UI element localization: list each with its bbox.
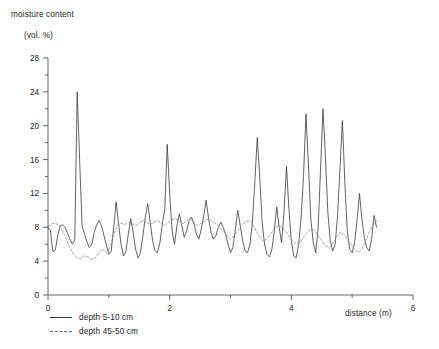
y-axis-tick-label: 20 <box>30 122 40 131</box>
legend-item-depth-5-10: depth 5-10 cm <box>50 313 133 322</box>
y-axis-tick-label: 0 <box>34 291 39 300</box>
chart-container: moisture content (vol. %) distance (m) 0… <box>0 0 439 349</box>
y-axis-tick-label: 12 <box>30 189 40 198</box>
legend-label-0: depth 5-10 cm <box>79 313 133 322</box>
legend-swatch-dashed-icon <box>50 331 72 333</box>
series-line-0 <box>48 92 377 258</box>
legend-item-depth-45-50: depth 45-50 cm <box>50 327 138 336</box>
series-line-1 <box>48 219 377 260</box>
y-axis-tick-label: 28 <box>30 54 40 63</box>
y-axis-tick-label: 8 <box>34 223 39 232</box>
x-axis-tick-label: 2 <box>167 304 172 313</box>
plot-area: 04812162024280246 <box>0 0 439 349</box>
y-axis-tick-label: 16 <box>30 156 40 165</box>
x-axis-tick-label: 0 <box>46 304 51 313</box>
legend-label-1: depth 45-50 cm <box>79 327 138 336</box>
y-axis-tick-label: 4 <box>34 257 39 266</box>
x-axis-title: distance (m) <box>345 309 392 318</box>
y-axis-title-line2: (vol. %) <box>24 31 53 40</box>
y-axis-title-line1: moisture content <box>11 10 74 19</box>
legend-swatch-solid-icon <box>50 317 72 319</box>
x-axis-tick-label: 6 <box>411 304 416 313</box>
y-axis-tick-label: 24 <box>30 88 40 97</box>
x-axis-tick-label: 4 <box>289 304 294 313</box>
